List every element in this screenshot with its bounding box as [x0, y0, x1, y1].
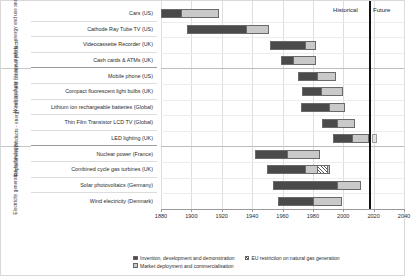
row-separator: [161, 146, 404, 147]
x-axis-tick: [222, 209, 223, 212]
bar-segment-invention: [279, 198, 313, 205]
x-axis-tick: [283, 209, 284, 212]
x-axis-tick: [191, 209, 192, 212]
x-axis-tick-label: 1880: [150, 213, 172, 219]
row-label: Lithium ion rechargeable batteries (Glob…: [31, 100, 157, 116]
timeline-bar: [301, 103, 345, 112]
legend-label-deployment: Market deployment and commercialisation: [140, 263, 234, 269]
chart-legend: Invention, development and demonstration…: [133, 255, 350, 270]
row-separator: [161, 178, 404, 179]
timeline-bar: [270, 41, 316, 50]
bar-segment-deployment: [305, 166, 317, 173]
legend-label-eu-restriction: EU restriction on natural gas generation: [252, 255, 340, 261]
bar-segment-deployment: [246, 26, 268, 33]
bar-segment-deployment: [313, 198, 341, 205]
legend-row-1: Invention, development and demonstration…: [133, 255, 350, 261]
row-separator: [161, 22, 404, 23]
timeline-bar: [187, 25, 269, 34]
bar-segment-invention: [268, 166, 305, 173]
group-label-cell-electricity-generation: Electricity generation technologies: [1, 146, 31, 208]
row-label: Mobile phone (US): [31, 68, 157, 84]
x-axis-tick-label: 1940: [241, 213, 263, 219]
x-axis-tick: [161, 209, 162, 212]
era-label-future: Future: [373, 7, 390, 13]
bar-segment-invention: [303, 88, 320, 95]
bar-segment-deployment: [321, 88, 343, 95]
row-label: Cash cards & ATMs (UK): [31, 53, 157, 69]
row-separator: [161, 53, 404, 54]
legend-swatch-eu-restriction-icon: [245, 256, 250, 261]
bar-segment-deployment: [305, 42, 315, 49]
bar-segment-invention: [302, 104, 330, 111]
timeline-bar: [298, 72, 336, 81]
row-label: Combined cycle gas turbines (UK): [31, 162, 157, 178]
era-label-historical: Historical: [333, 7, 358, 13]
row-label: Thin Film Transistor LCD TV (Global): [31, 115, 157, 131]
legend-row-2: Market deployment and commercialisation: [133, 263, 350, 269]
x-axis-tick-label: 2020: [363, 213, 385, 219]
bar-segment-invention: [188, 26, 246, 33]
x-axis-tick-label: 1920: [211, 213, 233, 219]
bar-end-marker: [372, 134, 377, 143]
timeline-bar: [255, 150, 320, 159]
x-axis-tick-label: 1960: [272, 213, 294, 219]
x-axis-tick: [374, 209, 375, 212]
timeline-bar: [161, 9, 219, 18]
bar-segment-deployment: [329, 104, 343, 111]
row-separator: [161, 37, 404, 38]
x-axis-tick: [252, 209, 253, 212]
bar-segment-invention: [334, 135, 353, 142]
x-axis-tick-label: 1980: [302, 213, 324, 219]
x-axis-tick-label: 2040: [393, 213, 415, 219]
timeline-bar: [273, 181, 361, 190]
group-label-cell-replacement-products: Replacement products - energy end use an…: [1, 68, 31, 147]
row-separator: [161, 162, 404, 163]
x-axis-tick-label: 1900: [180, 213, 202, 219]
x-axis-tick: [404, 209, 405, 212]
timeline-bar: [278, 197, 342, 206]
timeline-bar: [267, 165, 329, 174]
bar-segment-deployment: [337, 182, 361, 189]
legend-item-eu-restriction: EU restriction on natural gas generation: [245, 255, 340, 261]
bar-segment-invention: [274, 182, 336, 189]
gridline: [404, 1, 405, 209]
row-separator: [161, 115, 404, 116]
timeline-bar: [322, 119, 355, 128]
bar-segment-invention: [299, 73, 318, 80]
x-axis-tick: [343, 209, 344, 212]
row-label: Cathode Ray Tube TV (US): [31, 22, 157, 38]
timeline-bar: [281, 56, 316, 65]
row-label: Nuclear power (France): [31, 146, 157, 162]
bar-segment-invention: [282, 57, 293, 64]
bar-segment-deployment: [337, 120, 354, 127]
x-axis-tick-label: 2000: [332, 213, 354, 219]
row-separator: [161, 68, 404, 69]
timeline-bar: [302, 87, 343, 96]
row-separator: [161, 84, 404, 85]
bar-segment-invention: [271, 42, 304, 49]
row-label: Compact fluorescent light bulbs (UK): [31, 84, 157, 100]
bar-segment-deployment: [181, 10, 218, 17]
legend-item-invention: Invention, development and demonstration: [133, 255, 235, 261]
plot-area: HistoricalFuture188019001920194019601980…: [161, 1, 404, 276]
row-separator: [161, 193, 404, 194]
row-separator: [161, 100, 404, 101]
legend-item-deployment: Market deployment and commercialisation: [133, 263, 234, 269]
row-label: Wind electricity (Denmark): [31, 193, 157, 209]
timeline-bar: [333, 134, 369, 143]
legend-label-invention: Invention, development and demonstration: [140, 255, 235, 261]
row-label: Cars (US): [31, 6, 157, 22]
legend-swatch-invention-icon: [133, 256, 138, 261]
row-label: Videocassette Recorder (UK): [31, 37, 157, 53]
row-label: Solar photovoltaics (Germany): [31, 178, 157, 194]
bar-segment-deployment: [287, 151, 319, 158]
bar-segment-deployment: [327, 166, 329, 173]
bar-segment-deployment: [352, 135, 368, 142]
bar-segment-deployment: [293, 57, 314, 64]
legend-swatch-deployment-icon: [133, 263, 138, 268]
row-separator: [161, 131, 404, 132]
bar-segment-eu-restriction: [317, 166, 327, 173]
group-label-text: Electricity generation technologies: [13, 141, 19, 214]
bar-segment-invention: [323, 120, 337, 127]
